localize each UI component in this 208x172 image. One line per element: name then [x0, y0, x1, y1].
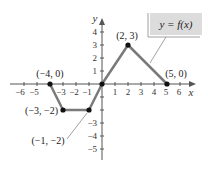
point-origin — [99, 81, 104, 86]
y-tick-label: −5 — [87, 144, 97, 154]
x-axis-label: x — [188, 86, 194, 98]
point-neg1-neg2 — [86, 107, 91, 112]
y-tick-label: −4 — [87, 131, 97, 141]
point-label: (−4, 0) — [36, 68, 63, 80]
y-axis-label: y — [92, 12, 98, 24]
x-tick-label: −5 — [29, 87, 39, 97]
point-label: (−3, −2) — [25, 105, 58, 117]
x-tick-label: 5 — [164, 87, 169, 97]
leader-line — [67, 113, 87, 139]
y-tick-label: 1 — [93, 66, 98, 76]
point-2-3 — [125, 42, 130, 47]
point-neg3-neg2 — [60, 107, 65, 112]
y-axis-arrow-icon — [99, 18, 105, 25]
point-label: (5, 0) — [165, 68, 187, 80]
x-tick-label: −3 — [56, 87, 66, 97]
y-tick-label: −3 — [87, 118, 97, 128]
x-tick-label: 2 — [126, 87, 131, 97]
point-5-0 — [164, 81, 169, 86]
legend-label: y = f(x) — [158, 18, 192, 31]
y-tick-label: 2 — [93, 53, 98, 63]
point-label: (2, 3) — [116, 30, 138, 42]
y-tick-label: 3 — [93, 40, 98, 50]
point-neg4-0 — [47, 81, 52, 86]
x-tick-label: 4 — [152, 87, 157, 97]
y-tick-label: 4 — [93, 27, 98, 37]
function-graph: −6 −5 −3 −2 −1 1 2 3 4 5 6 x 4 3 2 1 −3 … — [0, 0, 208, 172]
x-tick-label: 3 — [139, 87, 144, 97]
x-tick-label: 1 — [113, 87, 118, 97]
legend-leader-line — [150, 37, 166, 63]
x-tick-label: −6 — [15, 87, 25, 97]
x-tick-label: −2 — [69, 87, 79, 97]
x-tick-label: 6 — [177, 87, 182, 97]
function-line — [50, 45, 167, 110]
x-tick-label: −1 — [82, 87, 92, 97]
point-label: (−1, −2) — [32, 135, 65, 147]
